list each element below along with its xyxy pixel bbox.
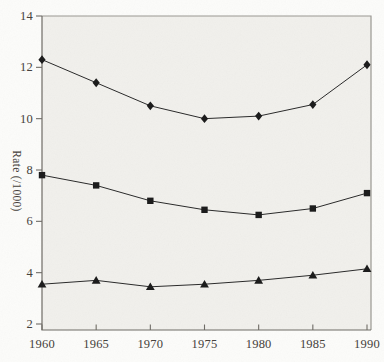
x-tick-label: 1970 <box>137 337 163 351</box>
x-tick-label: 1965 <box>83 337 109 351</box>
marker-square <box>364 190 370 196</box>
marker-square <box>310 205 316 211</box>
x-tick-label: 1985 <box>300 337 326 351</box>
chart-figure: 24681012141960196519701975198019851990Ra… <box>0 0 384 362</box>
marker-square <box>147 198 153 204</box>
x-tick-label: 1990 <box>354 337 380 351</box>
y-tick-label: 14 <box>20 9 33 23</box>
y-tick-label: 4 <box>27 266 34 280</box>
marker-square <box>201 207 207 213</box>
line-chart: 24681012141960196519701975198019851990Ra… <box>0 0 384 362</box>
y-tick-label: 12 <box>20 60 33 74</box>
y-tick-label: 2 <box>27 317 33 331</box>
y-tick-label: 8 <box>27 163 33 177</box>
x-tick-label: 1975 <box>192 337 218 351</box>
marker-square <box>39 172 45 178</box>
x-tick-label: 1960 <box>29 337 55 351</box>
y-tick-label: 10 <box>20 112 33 126</box>
marker-square <box>93 182 99 188</box>
scan-texture <box>0 0 384 362</box>
x-tick-label: 1980 <box>246 337 272 351</box>
y-axis-title: Rate (/1000) <box>10 150 23 211</box>
marker-square <box>255 212 261 218</box>
y-tick-label: 6 <box>27 214 33 228</box>
